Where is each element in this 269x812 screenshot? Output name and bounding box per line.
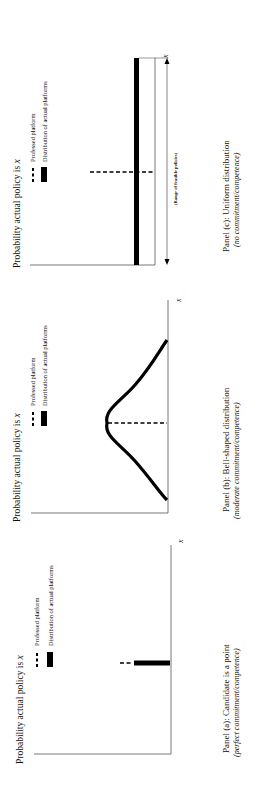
legend-solid-label: Distribution of actual platforms (41, 325, 48, 406)
legend-dashed-label: Professed platform (29, 114, 36, 162)
arrow-down-icon (165, 259, 170, 265)
panel-b-legend: Professed platform Distribution of actua… (29, 325, 48, 426)
panel-b: Probability actual policy is x Professed… (12, 298, 241, 522)
panel-b-x-axis-label: x (174, 298, 183, 303)
panel-a: Probability actual policy is x Professed… (15, 539, 241, 764)
legend-solid-label: Distribution of actual platforms (41, 81, 48, 162)
panel-c-uniform-distribution (134, 58, 139, 265)
legend-dashed-label: Professed platform (29, 358, 36, 406)
panel-c-x-axis-label: x (161, 54, 170, 59)
panel-b-subcaption: (moderate commitment/competence) (232, 402, 241, 519)
panel-b-caption: Panel (b): Bell-shaped distribution (221, 387, 231, 512)
panel-c-range-label: (Range of feasible policies) (173, 152, 178, 205)
panel-c: Probability actual policy is x Professed… (12, 54, 241, 268)
panel-a-point-spike (134, 661, 170, 666)
figure-canvas: Probability actual policy is x Professed… (0, 0, 269, 812)
panel-c-caption: Panel (c): Uniform distribution (221, 140, 231, 252)
legend-dashed-label: Professed platform (33, 598, 40, 646)
legend-solid-swatch-icon (41, 167, 47, 182)
panel-a-subcaption: (perfect commitment/competence) (232, 648, 241, 757)
panel-c-y-axis-label: Probability actual policy is x (12, 159, 22, 268)
panel-a-caption: Panel (a): Candidate is a point (221, 644, 231, 753)
panel-a-x-axis-label: x (176, 539, 185, 544)
panel-b-y-axis-label: Probability actual policy is x (12, 413, 22, 522)
legend-solid-swatch-icon (41, 411, 47, 426)
panel-b-bell-curve (107, 340, 167, 500)
panel-a-y-axis-label: Probability actual policy is x (15, 655, 25, 764)
panel-a-legend: Professed platform Distribution of actua… (33, 565, 54, 667)
legend-solid-swatch-icon (47, 652, 53, 667)
legend-solid-label: Distribution of actual platforms (47, 565, 54, 646)
panel-c-subcaption: (no commitment/competence) (232, 152, 241, 247)
panel-c-legend: Professed platform Distribution of actua… (29, 81, 48, 182)
